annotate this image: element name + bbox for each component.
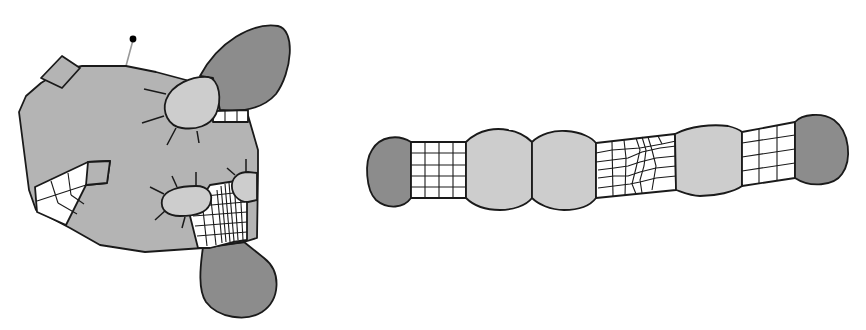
light-bulge-1: [466, 129, 532, 210]
pin-stem: [126, 40, 133, 66]
left-dark-cap: [367, 137, 411, 206]
regular-grid-mesh: [411, 142, 466, 198]
left-diagram: [19, 25, 290, 317]
top-mesh-strip: [213, 110, 248, 122]
light-bulge-3: [675, 125, 742, 196]
irregular-mesh: [596, 134, 676, 198]
light-bulge-2: [532, 131, 596, 210]
bottom-dark-lobe: [200, 242, 276, 317]
right-diagram: [367, 115, 848, 210]
skewed-grid-mesh: [742, 122, 795, 186]
pin-marker-icon: [130, 36, 137, 43]
diagram-canvas: [0, 0, 866, 330]
right-dark-cap: [795, 115, 848, 184]
